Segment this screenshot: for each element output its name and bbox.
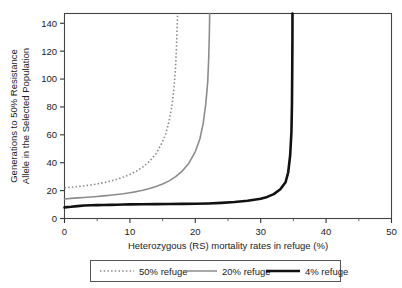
y-tick-label: 100 (41, 73, 57, 84)
legend: 50% refuge20% refuge4% refuge (91, 261, 349, 282)
x-tick-label: 0 (62, 226, 67, 237)
y-tick-label: 20 (46, 185, 57, 196)
y-axis-title: Generations to 50% ResistanceAllele in t… (8, 48, 31, 184)
x-tick-label: 30 (255, 226, 266, 237)
line-chart: 02040608010012014001020304050Generations… (0, 0, 402, 288)
x-tick-label: 10 (125, 226, 136, 237)
y-tick-label: 0 (52, 213, 57, 224)
y-axis: 020406080100120140 (41, 18, 64, 224)
x-tick-label: 40 (321, 226, 332, 237)
x-axis: 01020304050 (62, 219, 397, 237)
y-axis-title-line2: Allele in the Selected Population (20, 48, 31, 184)
y-tick-label: 60 (46, 129, 57, 140)
y-tick-label: 40 (46, 157, 57, 168)
legend-label-1: 50% refuge (139, 266, 188, 277)
legend-label-2: 20% refuge (222, 266, 271, 277)
x-tick-label: 20 (190, 226, 201, 237)
plot-frame (65, 14, 392, 219)
x-axis-title: Heterozygous (RS) mortality rates in ref… (128, 240, 328, 251)
chart-figure: 02040608010012014001020304050Generations… (0, 0, 402, 288)
y-tick-label: 140 (41, 18, 57, 29)
y-tick-label: 80 (46, 101, 57, 112)
x-tick-label: 50 (386, 226, 397, 237)
legend-label-3: 4% refuge (305, 266, 348, 277)
y-axis-title-line1: Generations to 50% Resistance (8, 49, 19, 183)
y-tick-label: 120 (41, 46, 57, 57)
